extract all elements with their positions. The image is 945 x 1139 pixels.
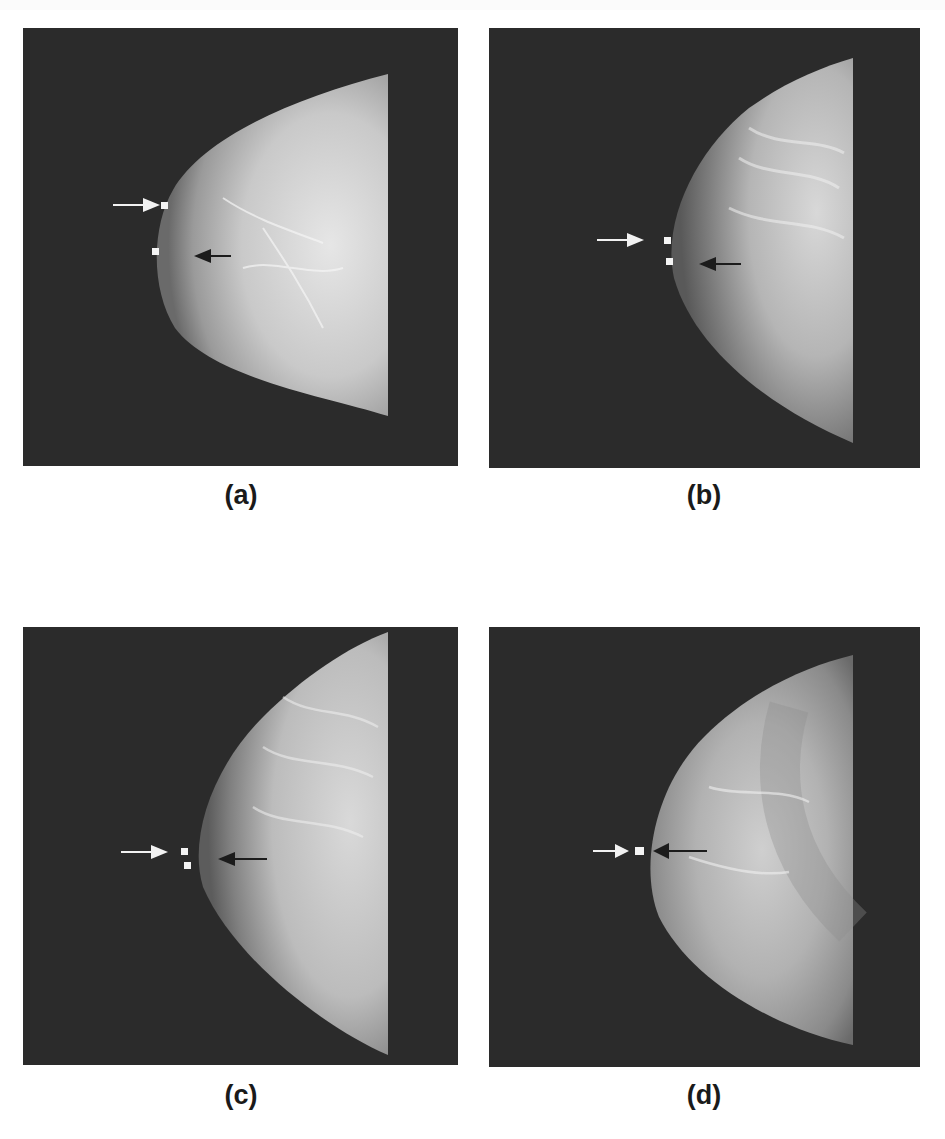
- roi-marker: [664, 237, 671, 244]
- mammogram-panel-a: [23, 28, 458, 466]
- mammogram-panel-b: [489, 28, 920, 468]
- white-arrow-icon: [113, 198, 160, 212]
- mammogram-image-c: [23, 627, 458, 1065]
- white-arrow-icon: [597, 233, 644, 247]
- top-page-bleed: [0, 0, 945, 10]
- roi-marker: [152, 248, 159, 255]
- mammogram-image-a: [23, 28, 458, 466]
- roi-marker: [635, 847, 644, 855]
- mammogram-panel-d: [489, 627, 920, 1067]
- roi-marker: [181, 848, 188, 855]
- panel-caption-a: (a): [181, 480, 301, 511]
- roi-marker: [184, 862, 191, 869]
- roi-marker: [666, 258, 673, 265]
- mammogram-image-d: [489, 627, 920, 1067]
- panel-caption-b: (b): [644, 480, 764, 511]
- roi-marker: [161, 202, 168, 209]
- white-arrow-icon: [121, 845, 168, 859]
- white-arrow-icon: [593, 844, 629, 858]
- mammogram-image-b: [489, 28, 920, 468]
- panel-caption-c: (c): [181, 1080, 301, 1111]
- mammogram-panel-c: [23, 627, 458, 1065]
- panel-caption-d: (d): [644, 1080, 764, 1111]
